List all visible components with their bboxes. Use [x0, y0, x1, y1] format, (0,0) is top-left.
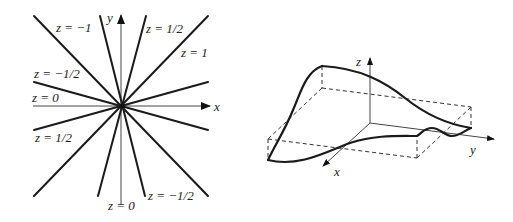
level-label: z = 0	[31, 90, 59, 105]
y-axis-label-3d: y	[468, 142, 476, 157]
z-axis-label: z	[355, 54, 361, 69]
diagram-canvas: y x z = −1 z = 1/2 z = 1 z = −1/2 z = 0 …	[0, 0, 513, 222]
level-label: z = −1/2	[147, 188, 194, 203]
level-label: z = −1/2	[33, 66, 80, 81]
level-curves-figure: y x z = −1 z = 1/2 z = 1 z = −1/2 z = 0 …	[31, 10, 220, 213]
level-label: z = −1	[55, 20, 92, 35]
level-label: z = 1/2	[34, 130, 72, 145]
level-label: z = 1	[180, 45, 208, 60]
level-label: z = 1/2	[145, 21, 183, 36]
surface-top-curve	[322, 66, 471, 128]
origin-point	[120, 104, 125, 109]
surface-front-curve	[268, 128, 471, 162]
x-axis-label-3d: x	[333, 164, 340, 179]
y-axis-label: y	[105, 10, 113, 25]
surface-figure: z y x	[268, 54, 494, 179]
level-label: z = 0	[107, 198, 135, 213]
x-axis-label: x	[213, 99, 220, 114]
